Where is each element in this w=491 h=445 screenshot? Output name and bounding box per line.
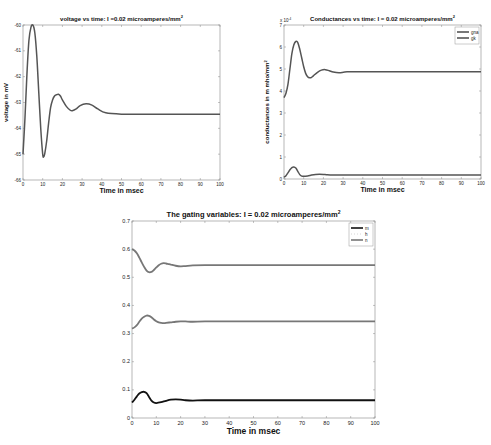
y-tick-label: 5 — [279, 67, 282, 72]
legend-box — [349, 223, 373, 246]
y-tick-label: 7 — [279, 23, 282, 28]
x-tick-label: 100 — [370, 420, 379, 426]
y-axis-label: voltage in mV — [3, 83, 9, 122]
y-tick-label: 0.3 — [122, 330, 130, 336]
plot-area — [23, 25, 220, 180]
legend-label-m: m — [365, 226, 369, 231]
y-tick-label: -64 — [14, 126, 21, 131]
x-axis-label: Time in msec — [360, 186, 404, 193]
y-tick-label: -66 — [14, 178, 21, 183]
y-tick-label: -63 — [14, 100, 21, 105]
chart-title: The gating variables: I = 0.02 microampe… — [167, 209, 341, 219]
x-tick-label: 10 — [301, 181, 307, 186]
x-tick-label: 90 — [459, 181, 465, 186]
x-tick-label: 100 — [477, 181, 485, 186]
y-tick-label: 0.6 — [122, 246, 130, 252]
x-tick-label: 30 — [80, 182, 86, 187]
y-tick-label: 0.5 — [122, 274, 130, 280]
x-tick-label: 10 — [153, 420, 159, 426]
y-tick-label: -62 — [14, 74, 21, 79]
gating-variables-chart: 010203040506070809010000.10.20.30.40.50.… — [122, 209, 379, 436]
chart-title: voltage vs time: I =0.02 microamperes/mm… — [60, 14, 184, 22]
x-axis-label: Time in msec — [99, 187, 143, 194]
y-tick-label: 0.4 — [122, 302, 130, 308]
x-tick-label: 0 — [283, 181, 286, 186]
x-tick-label: 80 — [323, 420, 329, 426]
y-multiplier: x 10-4 — [280, 17, 292, 23]
y-tick-label: -65 — [14, 152, 21, 157]
conductance-chart: 010203040506070809010001234567Conductanc… — [263, 14, 485, 193]
x-tick-label: 70 — [419, 181, 425, 186]
figure-canvas: 0102030405060708090100-66-65-64-63-62-61… — [0, 0, 491, 445]
x-tick-label: 0 — [130, 420, 133, 426]
plot-area — [132, 221, 375, 418]
x-tick-label: 0 — [22, 182, 25, 187]
x-tick-label: 10 — [40, 182, 46, 187]
legend-label-gna: gna — [471, 30, 479, 35]
x-tick-label: 20 — [60, 182, 66, 187]
x-tick-label: 70 — [158, 182, 164, 187]
x-tick-label: 80 — [178, 182, 184, 187]
chart-title: Conductances vs time: I = 0.02 microampe… — [310, 14, 456, 22]
x-tick-label: 100 — [216, 182, 224, 187]
y-tick-label: 4 — [279, 89, 282, 94]
x-tick-label: 30 — [341, 181, 347, 186]
x-tick-label: 80 — [439, 181, 445, 186]
y-tick-label: 0.2 — [122, 358, 130, 364]
x-tick-label: 90 — [198, 182, 204, 187]
y-tick-label: -61 — [14, 48, 21, 53]
y-tick-label: 0.1 — [122, 386, 130, 392]
y-tick-label: 6 — [279, 45, 282, 50]
x-tick-label: 90 — [348, 420, 354, 426]
plot-area — [284, 25, 481, 179]
y-tick-label: 0 — [127, 415, 130, 421]
y-tick-label: 3 — [279, 111, 282, 116]
legend-label-gk: gk — [471, 36, 477, 41]
x-tick-label: 30 — [202, 420, 208, 426]
y-tick-label: 1 — [279, 155, 282, 160]
y-axis-label: conductances in m mho/mm2 — [263, 60, 270, 144]
x-tick-label: 70 — [299, 420, 305, 426]
x-tick-label: 20 — [321, 181, 327, 186]
x-tick-label: 20 — [178, 420, 184, 426]
y-tick-label: 2 — [279, 133, 282, 138]
x-axis-label: Time in msec — [227, 426, 281, 436]
voltage-chart: 0102030405060708090100-66-65-64-63-62-61… — [3, 14, 224, 194]
y-tick-label: 0.7 — [122, 218, 130, 224]
y-tick-label: -60 — [14, 23, 21, 28]
